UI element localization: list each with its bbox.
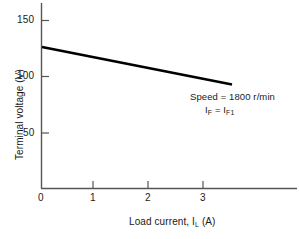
field-current-equals: = I <box>212 104 226 115</box>
x-tick-label-2: 2 <box>145 192 151 203</box>
x-tick-label-0: 0 <box>38 192 44 203</box>
field-current-subscript-2: F1 <box>226 109 234 116</box>
data-line-terminal-voltage <box>42 47 232 85</box>
y-axis-label: Terminal voltage (V) <box>14 69 25 160</box>
field-current-annotation: IF = IF1 <box>205 104 234 116</box>
y-tick-label-150: 150 <box>17 14 34 25</box>
x-tick-label-3: 3 <box>200 192 206 203</box>
x-axis-label: Load current, IL (A) <box>129 216 216 228</box>
plot-canvas <box>0 0 299 239</box>
x-axis-label-unit-text: (A) <box>202 216 216 227</box>
x-axis-label-main: Load current, I <box>129 216 195 227</box>
x-tick-label-1: 1 <box>90 192 96 203</box>
chart-figure: 150 100 50 0 1 2 3 Terminal voltage (V) … <box>0 0 299 239</box>
speed-annotation: Speed = 1800 r/min <box>190 91 275 102</box>
